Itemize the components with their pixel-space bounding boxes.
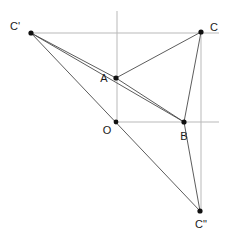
point-Cprime[interactable]: [28, 30, 33, 35]
label-C: C: [210, 21, 218, 33]
geometry-canvas: C' C A O B C": [0, 0, 228, 235]
label-B: B: [180, 130, 187, 142]
label-Cdprime: C": [195, 218, 207, 230]
point-C[interactable]: [198, 29, 203, 34]
segment-B-C: [184, 32, 201, 122]
point-Cdprime[interactable]: [197, 208, 202, 213]
segment-A-C: [116, 32, 201, 78]
point-A[interactable]: [113, 75, 118, 80]
label-A: A: [100, 72, 108, 84]
label-O: O: [103, 124, 112, 136]
segment-A-B: [116, 78, 184, 122]
geometry-diagram: C' C A O B C": [0, 0, 228, 235]
label-Cprime: C': [10, 20, 20, 32]
point-B[interactable]: [181, 119, 186, 124]
point-O[interactable]: [114, 120, 119, 125]
